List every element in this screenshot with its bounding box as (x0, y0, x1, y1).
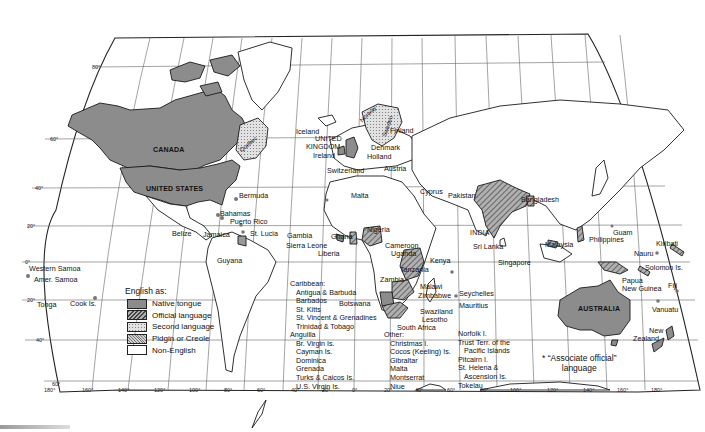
legend-label: Pidgin or Creole (152, 334, 209, 343)
lon-tick: 80° (224, 387, 232, 393)
lat-tick-40s: 40° (36, 337, 44, 343)
lat-tick-20s: 20° (27, 297, 35, 303)
label-united-states: UNITED STATES (146, 185, 203, 193)
label-australia: AUSTRALIA (578, 305, 620, 313)
label-amer-samoa: Amer. Samoa (34, 276, 78, 284)
label-guam: Guam (613, 229, 633, 237)
legend-item-native: Native tongue (127, 298, 214, 310)
label-puerto-rico: Puerto Rico (230, 218, 268, 226)
legend-label: Native tongue (152, 299, 201, 308)
label-tonga: Tonga (37, 301, 57, 309)
label-vanuatu: Vanuatu (652, 306, 678, 314)
list-item: U.S. Virgin Is. (290, 383, 354, 392)
legend-label: Non-English (152, 346, 196, 355)
lon-tick: 120° (154, 387, 165, 393)
label-fiji: Fiji (668, 282, 677, 290)
lon-tick: 180° (651, 387, 662, 393)
label-papua-line2: New Guinea (622, 285, 662, 293)
label-bangladesh: Bangladesh (521, 196, 559, 204)
native-swatch-icon (127, 299, 147, 309)
label-uganda: Uganda (391, 250, 416, 258)
label-switzerland: Switzerland (327, 167, 364, 175)
label-nauru: Nauru (634, 250, 654, 258)
label-zimbabwe: Zimbabwe (418, 292, 451, 300)
lat-tick-40n: 40° (35, 185, 43, 191)
label-austria: Austria (384, 165, 406, 173)
label-ireland: Ireland (313, 152, 335, 160)
lat-tick-80n: 80° (92, 64, 100, 70)
label-tanzania: Tanzania (400, 266, 429, 274)
pacific-list: Norfolk I. Trust Terr. of the Pacific Is… (458, 330, 510, 390)
label-ghana: Ghana (331, 233, 353, 241)
legend-label: Second language (152, 322, 214, 331)
legend-item-official: Official language (127, 310, 214, 322)
label-solomon: Solomon Is. (645, 264, 683, 272)
label-zambia: Zambia (380, 276, 404, 284)
legend-item-pidgin: Pidgin or Creole (127, 333, 214, 345)
label-india: INDIA (470, 229, 490, 237)
label-cyprus: Cyprus (420, 188, 443, 196)
page-edge-shadow (0, 425, 70, 429)
associate-note-line1: “Associate official” (548, 353, 617, 363)
second-swatch-icon (127, 322, 147, 332)
anguilla-list: Anguilla Br. Virgin Is. Cayman Is. Domin… (290, 331, 354, 391)
label-st-lucia: St. Lucia (250, 230, 278, 238)
legend-label: Official language (152, 311, 211, 320)
lat-tick-20n: 20° (27, 223, 35, 229)
asterisk-icon: * (542, 353, 545, 363)
label-new-zealand-line2: Zealand (633, 335, 659, 343)
legend-title: English as: (125, 286, 214, 296)
legend-item-second: Second language (127, 321, 214, 333)
label-kenya: Kenya (430, 257, 450, 265)
label-guyana: Guyana (217, 257, 242, 265)
lon-tick: 60° (257, 387, 265, 393)
official-swatch-icon (127, 310, 147, 320)
lon-tick: 180° (44, 387, 55, 393)
caribbean-list: Caribbean: Antigua & Barbuda Barbados St… (290, 280, 377, 332)
lon-tick: 140° (583, 387, 594, 393)
lon-tick: 100° (510, 387, 521, 393)
label-mauritius: Mauritius (459, 302, 488, 310)
non-english-swatch-icon (127, 345, 147, 355)
lon-tick: 160° (82, 387, 93, 393)
lon-tick: 160° (617, 387, 628, 393)
associate-official-note: * “Associate official” language (542, 353, 617, 373)
lon-tick: 120° (547, 387, 558, 393)
label-holland: Holland (367, 153, 391, 161)
list-item: Niue (384, 383, 451, 392)
label-malta: Malta (351, 192, 369, 200)
label-nigeria: Nigeria (367, 226, 390, 234)
label-kiribati: Kiribati (656, 240, 678, 248)
label-belize: Belize (172, 230, 192, 238)
label-malaysia: Malaysia (545, 241, 573, 249)
pidgin-swatch-icon (127, 334, 147, 344)
lon-tick: 140° (118, 387, 129, 393)
lat-tick-60n: 60° (50, 136, 58, 142)
label-singapore: Singapore (498, 259, 531, 267)
label-cook-islands: Cook Is. (70, 300, 96, 308)
papua-new-guinea-region (598, 262, 628, 274)
map-legend: English as: Native tongue Official langu… (127, 286, 214, 356)
legend-item-non-english: Non-English (127, 344, 214, 356)
label-liberia: Liberia (318, 250, 340, 258)
label-pakistan: Pakistan (448, 192, 476, 200)
lon-tick: 100° (189, 387, 200, 393)
label-canada: CANADA (153, 146, 185, 154)
label-western-samoa: Western Samoa (29, 265, 80, 273)
associate-note-line2: language (542, 363, 617, 373)
other-list: Other: Christmas I. Cocos (Keeling) Is. … (384, 331, 451, 391)
label-jamaica: Jamaica (203, 231, 230, 239)
label-seychelles: Seychelles (459, 290, 494, 298)
label-finland: Finland (390, 127, 414, 135)
label-sri-lanka: Sri Lanka (473, 243, 503, 251)
canada-region (68, 88, 248, 170)
list-item: Tokelau (458, 382, 510, 391)
label-gambia: Gambia (287, 232, 312, 240)
label-bermuda: Bermuda (239, 192, 268, 200)
